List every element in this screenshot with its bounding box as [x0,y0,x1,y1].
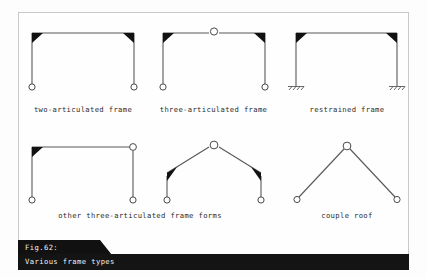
corner-hinge [130,144,137,151]
rigid-corner-gusset [123,33,134,43]
diagram-two-articulated-frame [29,33,137,90]
pin-support [160,84,166,90]
pin-support [294,196,300,202]
diagram-restrained-frame [288,33,405,90]
frame-diagrams: .member { stroke: #585858; stroke-width:… [0,0,427,279]
figure-container: .member { stroke: #585858; stroke-width:… [0,0,427,279]
pin-support [258,197,264,203]
rigid-corner-gusset [163,33,174,43]
pin-support [130,197,136,203]
fixed-support [288,87,304,91]
rigid-corner-gusset [32,147,43,157]
apex-hinge [210,28,217,35]
apex-hinge [343,142,351,150]
rigid-corner-gusset [296,33,307,43]
rigid-corner-gusset [254,33,265,43]
diagram-gable-frame [164,141,264,203]
pin-support [29,84,35,90]
diagram-other-three-articulated-frame-left [29,144,137,203]
diagram-three-articulated-frame [160,28,268,90]
label-couple-roof: couple roof [287,211,407,220]
rigid-corner-gusset [251,167,261,181]
label-restrained-frame: restrained frame [287,105,407,114]
diagram-couple-roof [294,142,400,202]
rigid-corner-gusset [167,167,177,181]
caption-figure-number: Fig.62: [25,243,58,252]
label-other-three-articulated-frame-forms: other three-articulated frame forms [20,211,260,220]
rigid-corner-gusset [32,33,43,43]
pin-support [262,84,268,90]
caption-figure-title: Various frame types [25,257,115,266]
pin-support [131,84,137,90]
label-two-articulated-frame: two-articulated frame [0,105,166,114]
pin-support [29,197,35,203]
label-three-articulated-frame: three-articulated frame [147,105,280,114]
pin-support [164,197,170,203]
figure-caption-banner: Fig.62: Various frame types [18,240,409,270]
rigid-corner-gusset [386,33,397,43]
fixed-support [389,87,405,91]
apex-hinge [210,141,218,149]
pin-support [394,196,400,202]
